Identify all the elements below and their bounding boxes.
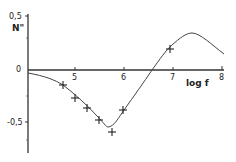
plus-marker (95, 116, 103, 124)
x-label-7: 7 (170, 73, 175, 82)
x-label-5: 5 (72, 73, 77, 82)
plus-marker (83, 104, 91, 112)
plus-marker (108, 128, 116, 136)
data-markers (59, 45, 174, 136)
chart: 0,5 N" 0 -0,5 5 6 7 8 log f (0, 0, 236, 162)
x-axis-name: log f (186, 78, 209, 88)
y-label-neg: -0,5 (7, 118, 23, 127)
plus-marker (59, 81, 67, 89)
plus-marker (166, 45, 174, 53)
y-label-top: 0,5 (9, 12, 22, 21)
plus-marker (71, 94, 79, 102)
x-label-6: 6 (121, 73, 126, 82)
x-label-8: 8 (219, 73, 224, 82)
y-label-zero: 0 (16, 65, 21, 74)
y-axis-name: N" (12, 23, 24, 33)
